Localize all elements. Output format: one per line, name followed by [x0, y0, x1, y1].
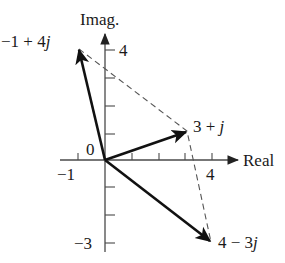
vector-3-plus-j	[105, 132, 186, 160]
vector-4-minus-3j	[105, 160, 210, 241]
imag-axis-label: Imag.	[80, 10, 119, 29]
vector-label-4-minus-3j: 4 − 3j	[218, 233, 258, 252]
real-tick-label-neg1: −1	[57, 165, 75, 184]
real-axis-label: Real	[243, 151, 274, 170]
origin-label: 0	[86, 140, 95, 159]
imag-axis-ticks	[105, 50, 115, 243]
vector-label-3-plus-j: 3 + j	[193, 117, 225, 136]
imag-tick-label-neg3: −3	[74, 234, 92, 253]
real-axis-ticks	[78, 153, 212, 160]
complex-plane-diagram: Imag. Real 4 −3 −1 4 0 −1 + 4j 3 + j 4 −…	[0, 0, 285, 263]
real-tick-label-4: 4	[206, 165, 215, 184]
vector-label-neg1-plus-4j: −1 + 4j	[1, 32, 51, 51]
imag-tick-label-4: 4	[119, 41, 128, 60]
